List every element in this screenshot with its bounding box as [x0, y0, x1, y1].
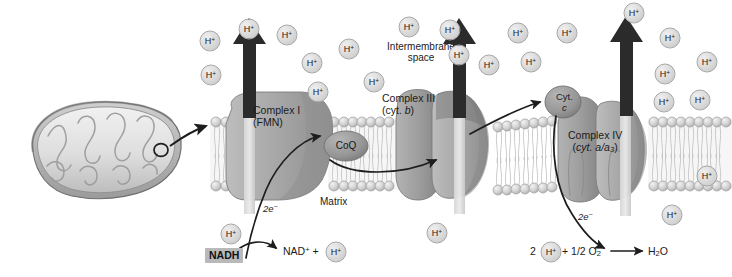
mitochondrion-illustration — [32, 102, 206, 199]
proton-ion-intermembrane-14: H+ — [557, 23, 578, 44]
intermembrane-space-label: Intermembrane space — [387, 41, 455, 63]
proton-ion-matrix-1: H+ — [427, 223, 448, 244]
proton-ion-intermembrane-11: H+ — [479, 55, 500, 76]
proton-ion-intermembrane-12: H+ — [508, 23, 529, 44]
proton-ion-intermembrane-2: H+ — [239, 19, 260, 40]
proton-ion-oxygen-reactant: H+ — [541, 242, 562, 263]
coq-label: CoQ — [336, 140, 357, 151]
complex-iii-cofactor: (cyt. b) — [382, 105, 435, 117]
proton-ion-intermembrane-17: H+ — [655, 64, 676, 85]
proton-ion-nad-product: H+ — [326, 242, 347, 263]
complex-iv-cofactor: (cyt. a/a3) — [568, 142, 622, 155]
proton-ion-intermembrane-19: H+ — [654, 92, 675, 113]
electrons-label-left: 2e− — [263, 203, 278, 214]
nad-products-label: NAD+ + — [283, 246, 322, 258]
complex-iii-label: Complex III (cyt. b) — [382, 93, 435, 117]
proton-ion-intermembrane-3: H+ — [277, 25, 298, 46]
oxygen-equation-left: 2 — [530, 246, 539, 258]
cyt-c-line2: c — [556, 103, 573, 114]
complex-i-label: Complex I (FMN) — [253, 105, 300, 129]
cyt-c-label: Cyt. c — [556, 92, 573, 113]
proton-ion-intermembrane-20: H+ — [697, 52, 718, 73]
arrow-nadh-to-nad — [240, 242, 276, 248]
proton-ion-intermembrane-15: H+ — [624, 3, 645, 24]
electrons-label-right: 2e− — [578, 211, 593, 222]
etc-diagram: Complex I (FMN) Complex III (cyt. b) Com… — [0, 0, 732, 277]
proton-ion-intermembrane-7: H+ — [364, 72, 385, 93]
proton-ion-intermembrane-10: H+ — [449, 45, 470, 66]
proton-ion-intermembrane-13: H+ — [521, 52, 542, 73]
complex-i-name: Complex I — [253, 105, 300, 117]
intermembrane-line2: space — [387, 52, 455, 63]
proton-ion-matrix-2: H+ — [662, 205, 683, 226]
proton-ion-intermembrane-6: H+ — [339, 39, 360, 60]
proton-ion-intermembrane-9: H+ — [440, 20, 461, 41]
complex-i-cofactor: (FMN) — [253, 117, 300, 129]
proton-ion-intermembrane-8: H+ — [399, 17, 420, 38]
proton-ion-intermembrane-0: H+ — [200, 31, 221, 52]
nadh-label: NADH — [205, 248, 243, 263]
proton-ion-matrix-3: H+ — [697, 166, 718, 187]
complex-iv-label: Complex IV (cyt. a/a3) — [568, 130, 622, 155]
proton-ion-intermembrane-16: H+ — [660, 28, 681, 49]
proton-ion-intermembrane-5: H+ — [308, 82, 329, 103]
proton-ion-matrix-0: H+ — [221, 224, 242, 245]
proton-ion-intermembrane-4: H+ — [302, 53, 323, 74]
intermembrane-line1: Intermembrane — [387, 41, 455, 52]
oxygen-equation-mid: + 1/2 O2 — [562, 246, 601, 259]
proton-ion-intermembrane-1: H+ — [201, 65, 222, 86]
proton-ion-intermembrane-18: H+ — [690, 90, 711, 111]
matrix-label: Matrix — [320, 196, 347, 207]
water-label: H2O — [648, 246, 668, 259]
nadh-highlight: NADH — [205, 245, 243, 263]
